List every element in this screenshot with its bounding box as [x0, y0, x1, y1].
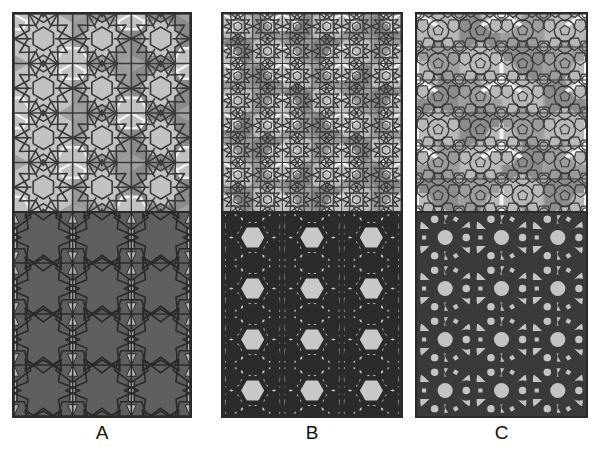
panel-a-divider — [12, 211, 192, 213]
panel-caption-b: B — [221, 422, 403, 444]
pattern-b-underlay — [223, 14, 401, 212]
panel-a-bottom-half — [14, 212, 190, 416]
panel-b-divider — [221, 211, 403, 213]
panel-c-top-half — [417, 14, 586, 212]
panel-b-bottom-half — [223, 212, 401, 416]
panel-a — [12, 12, 192, 418]
pattern-b-derived — [223, 212, 401, 416]
pattern-a-underlay — [14, 14, 190, 212]
figure-root: ABC — [0, 0, 600, 456]
panel-a-top-half — [14, 14, 190, 212]
panel-b — [221, 12, 403, 418]
panel-b-top-half — [223, 14, 401, 212]
panel-c — [415, 12, 588, 418]
panel-caption-c: C — [415, 422, 588, 444]
panel-caption-a: A — [12, 422, 192, 444]
panel-c-divider — [415, 211, 588, 213]
pattern-c-derived — [417, 212, 586, 416]
pattern-c-underlay — [417, 14, 586, 212]
panel-c-bottom-half — [417, 212, 586, 416]
pattern-a-derived — [14, 212, 190, 416]
